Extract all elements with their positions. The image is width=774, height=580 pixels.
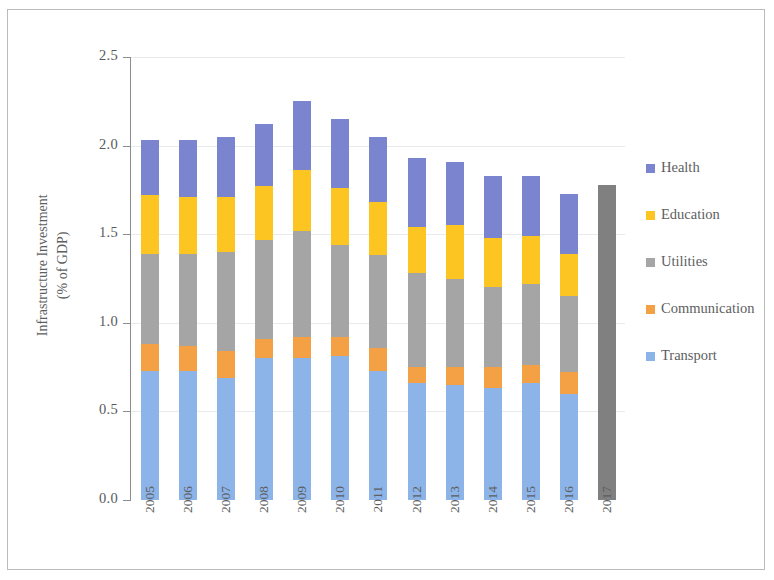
- bar-segment-transport[interactable]: [446, 385, 464, 500]
- legend-item-communication[interactable]: Communication: [646, 301, 771, 348]
- legend-item-utilities[interactable]: Utilities: [646, 254, 771, 301]
- legend-label: Education: [661, 207, 720, 223]
- bar-segment-health[interactable]: [255, 124, 273, 186]
- stacked-bar[interactable]: [217, 137, 235, 500]
- bar-segment-transport[interactable]: [408, 383, 426, 500]
- bar-segment-health[interactable]: [408, 158, 426, 227]
- bar-group: 2010: [322, 0, 358, 500]
- y-axis-title: Infrastructure Investment (% of GDP): [33, 150, 74, 380]
- chart-figure: Infrastructure Investment (% of GDP) 2.5…: [0, 0, 774, 580]
- bar-segment-transport[interactable]: [484, 388, 502, 500]
- stacked-bar[interactable]: [560, 194, 578, 501]
- bar-segment-education[interactable]: [369, 202, 387, 255]
- bar-segment-utilities[interactable]: [408, 273, 426, 367]
- bar-segment-communication[interactable]: [369, 348, 387, 371]
- bar-segment-health[interactable]: [293, 101, 311, 170]
- bar-segment-utilities[interactable]: [217, 252, 235, 351]
- stacked-bar[interactable]: [293, 101, 311, 500]
- bar-segment-education[interactable]: [522, 236, 540, 284]
- bar-segment-health[interactable]: [522, 176, 540, 236]
- bar-segment-health[interactable]: [141, 140, 159, 195]
- bar-segment-communication[interactable]: [293, 337, 311, 358]
- bar-segment-transport[interactable]: [560, 394, 578, 500]
- bar-segment-education[interactable]: [179, 197, 197, 254]
- bar-segment-communication[interactable]: [522, 365, 540, 383]
- stacked-bar[interactable]: [255, 124, 273, 500]
- legend-label: Transport: [661, 348, 717, 364]
- stacked-bar[interactable]: [408, 158, 426, 500]
- bar-segment-health[interactable]: [484, 176, 502, 238]
- bar-segment-utilities[interactable]: [560, 296, 578, 372]
- bar-segment-health[interactable]: [217, 137, 235, 197]
- bar-segment-communication[interactable]: [331, 337, 349, 356]
- bar-segment-health[interactable]: [560, 194, 578, 254]
- bar-segment-total-2017[interactable]: [598, 185, 616, 500]
- bar-segment-communication[interactable]: [484, 367, 502, 388]
- bar-segment-health[interactable]: [179, 140, 197, 197]
- bar-segment-health[interactable]: [446, 162, 464, 226]
- bar-segment-communication[interactable]: [560, 372, 578, 393]
- bar-segment-communication[interactable]: [255, 339, 273, 358]
- bar-segment-communication[interactable]: [179, 346, 197, 371]
- legend-label: Health: [661, 160, 700, 176]
- bar-segment-education[interactable]: [408, 227, 426, 273]
- stacked-bar[interactable]: [141, 140, 159, 500]
- bar-segment-utilities[interactable]: [331, 245, 349, 337]
- bar-segment-transport[interactable]: [331, 356, 349, 500]
- x-axis-tick-label: 2009: [294, 486, 310, 546]
- bar-segment-utilities[interactable]: [179, 254, 197, 346]
- bar-segment-transport[interactable]: [522, 383, 540, 500]
- y-axis-tick-label: 0.5: [78, 401, 118, 418]
- x-axis-tick-label: 2007: [218, 486, 234, 546]
- bar-segment-health[interactable]: [331, 119, 349, 188]
- x-axis-tick-label: 2010: [332, 486, 348, 546]
- bar-segment-communication[interactable]: [141, 344, 159, 371]
- legend-swatch-icon: [646, 305, 655, 314]
- bar-segment-transport[interactable]: [179, 371, 197, 500]
- bar-segment-utilities[interactable]: [446, 279, 464, 368]
- bar-segment-transport[interactable]: [369, 371, 387, 500]
- bar-segment-education[interactable]: [560, 254, 578, 297]
- bar-segment-transport[interactable]: [141, 371, 159, 500]
- bar-segment-utilities[interactable]: [141, 254, 159, 344]
- bar-segment-transport[interactable]: [255, 358, 273, 500]
- legend-item-transport[interactable]: Transport: [646, 348, 771, 395]
- y-axis-tick: [123, 500, 131, 501]
- y-axis-tick-label: 1.0: [78, 313, 118, 330]
- bar-group: 2015: [513, 0, 549, 500]
- stacked-bar[interactable]: [522, 176, 540, 500]
- bar-segment-communication[interactable]: [217, 351, 235, 378]
- bar-segment-communication[interactable]: [446, 367, 464, 385]
- bar-segment-utilities[interactable]: [369, 255, 387, 347]
- x-axis-tick-label: 2006: [180, 486, 196, 546]
- bar-segment-utilities[interactable]: [522, 284, 540, 366]
- stacked-bar[interactable]: [179, 140, 197, 500]
- bar-segment-education[interactable]: [331, 188, 349, 245]
- bar-segment-utilities[interactable]: [293, 231, 311, 337]
- bar-segment-communication[interactable]: [408, 367, 426, 383]
- bar-segment-utilities[interactable]: [484, 287, 502, 367]
- legend-item-education[interactable]: Education: [646, 207, 771, 254]
- x-axis-tick-label: 2005: [142, 486, 158, 546]
- y-axis-tick-label: 1.5: [78, 224, 118, 241]
- legend-item-health[interactable]: Health: [646, 160, 771, 207]
- bar-segment-education[interactable]: [141, 195, 159, 253]
- bar-segment-health[interactable]: [369, 137, 387, 203]
- bar-segment-education[interactable]: [484, 238, 502, 288]
- stacked-bar[interactable]: [484, 176, 502, 500]
- bar-segment-transport[interactable]: [293, 358, 311, 500]
- bar-segment-education[interactable]: [255, 186, 273, 239]
- stacked-bar[interactable]: [598, 185, 616, 500]
- bar-segment-education[interactable]: [446, 225, 464, 278]
- chart-legend: HealthEducationUtilitiesCommunicationTra…: [646, 160, 771, 395]
- bar-segment-education[interactable]: [217, 197, 235, 252]
- bar-group: 2012: [399, 0, 435, 500]
- bar-group: 2014: [475, 0, 511, 500]
- bar-segment-education[interactable]: [293, 170, 311, 230]
- bar-segment-transport[interactable]: [217, 378, 235, 500]
- stacked-bar[interactable]: [369, 137, 387, 500]
- bar-segment-utilities[interactable]: [255, 240, 273, 339]
- stacked-bar[interactable]: [446, 162, 464, 500]
- bar-group: 2008: [246, 0, 282, 500]
- stacked-bar[interactable]: [331, 119, 349, 500]
